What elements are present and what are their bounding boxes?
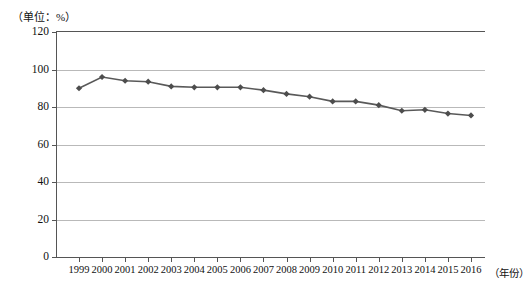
data-point-marker	[399, 108, 405, 114]
x-tick-label: 2009	[299, 265, 320, 276]
x-tick-mark	[171, 257, 172, 262]
x-tick-label: 2001	[115, 265, 136, 276]
y-tick-mark	[52, 257, 57, 258]
x-tick-mark	[125, 257, 126, 262]
x-tick-mark	[448, 257, 449, 262]
data-point-marker	[376, 102, 382, 108]
x-tick-mark	[194, 257, 195, 262]
data-point-marker	[306, 94, 312, 100]
y-tick-label: 60	[38, 139, 50, 151]
x-tick-mark	[148, 257, 149, 262]
x-tick-label: 2012	[368, 265, 389, 276]
x-tick-mark	[217, 257, 218, 262]
x-tick-label: 2007	[253, 265, 274, 276]
data-point-marker	[330, 98, 336, 104]
x-tick-mark	[263, 257, 264, 262]
x-tick-mark	[425, 257, 426, 262]
data-point-marker	[260, 87, 266, 93]
y-tick-label: 20	[38, 214, 50, 226]
x-tick-label: 2016	[461, 265, 482, 276]
x-tick-label: 2010	[322, 265, 343, 276]
data-point-marker	[353, 98, 359, 104]
data-point-marker	[76, 85, 82, 91]
x-tick-label: 2006	[230, 265, 251, 276]
x-tick-mark	[471, 257, 472, 262]
x-tick-label: 2014	[414, 265, 435, 276]
y-tick-label: 80	[38, 101, 50, 113]
x-tick-mark	[356, 257, 357, 262]
y-tick-label: 100	[32, 64, 49, 76]
x-tick-mark	[402, 257, 403, 262]
x-tick-label: 2002	[138, 265, 159, 276]
x-tick-label: 2015	[437, 265, 458, 276]
x-tick-mark	[333, 257, 334, 262]
plot-area: 020406080100120 199920002001200220032004…	[56, 31, 485, 258]
x-tick-mark	[79, 257, 80, 262]
x-tick-mark	[379, 257, 380, 262]
x-tick-label: 1999	[69, 265, 90, 276]
y-tick-label: 40	[38, 176, 50, 188]
x-axis-title: （年份）	[489, 265, 527, 280]
x-tick-label: 2011	[345, 265, 366, 276]
x-tick-label: 2013	[391, 265, 412, 276]
x-tick-mark	[240, 257, 241, 262]
data-point-marker	[445, 110, 451, 116]
x-tick-label: 2005	[207, 265, 228, 276]
data-point-marker	[422, 107, 428, 113]
data-point-marker	[168, 83, 174, 89]
x-tick-mark	[310, 257, 311, 262]
series-layer	[57, 32, 485, 257]
data-point-marker	[214, 84, 220, 90]
data-point-marker	[283, 91, 289, 97]
x-tick-mark	[287, 257, 288, 262]
x-tick-label: 2008	[276, 265, 297, 276]
data-point-marker	[191, 84, 197, 90]
y-tick-label: 0	[43, 251, 49, 263]
x-tick-label: 2003	[161, 265, 182, 276]
data-point-marker	[468, 112, 474, 118]
y-tick-label: 120	[32, 26, 49, 38]
x-tick-label: 2000	[92, 265, 113, 276]
series-line	[79, 77, 471, 115]
data-point-marker	[145, 79, 151, 85]
data-point-marker	[99, 74, 105, 80]
x-tick-mark	[102, 257, 103, 262]
y-axis-unit-label: （单位：%）	[12, 8, 76, 24]
x-tick-label: 2004	[184, 265, 205, 276]
data-point-marker	[122, 78, 128, 84]
data-point-marker	[237, 84, 243, 90]
